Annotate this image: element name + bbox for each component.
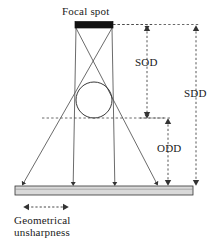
sod-label: SOD xyxy=(135,56,158,68)
sod-arrowhead-top xyxy=(144,25,150,31)
sdd-label: SDD xyxy=(184,87,207,99)
ray-right-inner xyxy=(112,28,115,183)
unsharpness-arrowhead-right xyxy=(63,204,69,210)
xray-beam-rays xyxy=(24,28,157,183)
ray-right-outer xyxy=(76,28,157,183)
unsharpness-arrowhead-left xyxy=(23,204,29,210)
focal-spot-label: Focal spot xyxy=(62,5,110,17)
dimension-sod xyxy=(113,25,152,118)
dimension-sdd xyxy=(113,25,200,186)
unsharpness-label-line1: Geometrical xyxy=(14,214,71,226)
sod-arrowhead-bottom xyxy=(144,112,150,118)
ray-left-inner xyxy=(73,28,76,183)
sdd-arrowhead-bottom xyxy=(193,180,199,186)
geometrical-unsharpness-label: Geometrical unsharpness xyxy=(14,214,71,239)
odd-arrowhead-top xyxy=(165,118,171,124)
odd-label: ODD xyxy=(157,142,181,154)
unsharpness-label-line2: unsharpness xyxy=(14,226,71,238)
focal-spot-rect xyxy=(75,22,113,29)
ray-left-outer xyxy=(24,28,113,183)
detector-plate xyxy=(15,186,193,195)
object-circle xyxy=(76,82,112,118)
radiography-geometry-diagram: Focal spot SOD SDD ODD Geometrical unsha… xyxy=(0,0,222,249)
diagram-canvas xyxy=(0,0,222,249)
unsharpness-measure-arrow xyxy=(23,204,69,210)
odd-arrowhead-bottom xyxy=(165,180,171,186)
sdd-arrowhead-top xyxy=(193,25,199,31)
